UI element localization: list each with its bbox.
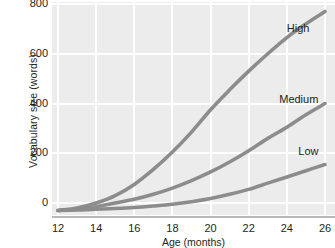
x-axis-tick-label: 26 xyxy=(310,222,335,234)
y-axis-tick-label: 200 xyxy=(2,147,48,158)
vocabulary-growth-chart: Vocabulary size (words) 0200400600800 Hi… xyxy=(0,0,335,248)
series-label-high: High xyxy=(287,23,310,34)
x-axis-tick-label: 14 xyxy=(81,222,111,234)
y-axis-tick-label: 400 xyxy=(2,98,48,109)
x-axis-tick-labels: 1214161820222426 xyxy=(0,222,335,236)
x-axis-tick-label: 12 xyxy=(43,222,73,234)
x-axis-tick-label: 24 xyxy=(272,222,302,234)
series-line-medium xyxy=(58,104,325,211)
x-axis-tick-label: 22 xyxy=(234,222,264,234)
series-label-low: Low xyxy=(298,146,318,157)
series-label-medium: Medium xyxy=(279,94,318,105)
y-axis-tick-label: 0 xyxy=(2,197,48,208)
y-axis-tick-labels: 0200400600800 xyxy=(0,0,48,216)
curves-layer xyxy=(52,2,335,215)
x-axis-tick-label: 18 xyxy=(157,222,187,234)
y-axis-tick-label: 600 xyxy=(2,48,48,59)
x-axis-line xyxy=(52,216,335,218)
y-axis-tick-label: 800 xyxy=(2,0,48,9)
plot-area xyxy=(52,2,335,215)
x-axis-tick-label: 16 xyxy=(119,222,149,234)
x-axis-title: Age (months) xyxy=(52,236,335,248)
x-axis-tick-label: 20 xyxy=(196,222,226,234)
